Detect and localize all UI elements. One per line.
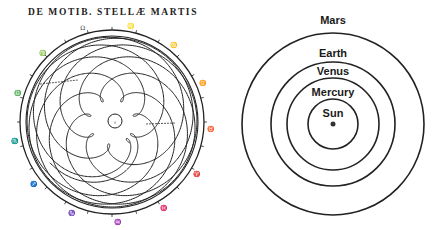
sun-dot [331, 122, 336, 127]
zodiac-label: ♑ [68, 209, 76, 217]
zodiac-tick [177, 55, 179, 57]
label-venus: Venus [317, 65, 349, 77]
zodiac-label: ♓ [160, 204, 168, 212]
zodiac-label: ♊ [199, 79, 207, 87]
zodiac-label: ♒ [114, 218, 122, 226]
zodiac-tick [192, 75, 195, 77]
zodiac-label: ♏ [11, 137, 19, 145]
zodiac-label: ♐ [30, 180, 38, 188]
zodiac-tick [158, 40, 160, 43]
zodiac-tick [65, 202, 67, 205]
label-mars: Mars [320, 14, 346, 26]
zodiac-label: ♎ [14, 89, 22, 97]
zodiac-tick [65, 40, 67, 43]
label-sun: Sun [323, 107, 344, 119]
zodiac-label: ♋ [170, 41, 178, 49]
zodiac-tick [30, 168, 33, 170]
geocentric-mars-path-diagram: Ω♌♋♊♉♈♓♒♑♐♏♎♍♁ [0, 0, 441, 230]
zodiac-label: ♉ [207, 125, 215, 133]
label-mercury: Mercury [312, 86, 355, 98]
zodiac-tick [177, 187, 179, 189]
zodiac-label: Ω [80, 24, 85, 31]
annotation-leader-right [146, 123, 176, 124]
label-earth: Earth [319, 47, 347, 59]
zodiac-label: ♌ [127, 22, 135, 30]
zodiac-tick [30, 75, 33, 77]
zodiac-tick [192, 168, 195, 170]
zodiac-tick [45, 187, 47, 189]
zodiac-label: ♍ [39, 49, 47, 57]
earth-symbol: ♁ [113, 119, 118, 125]
zodiac-label: ♈ [193, 170, 201, 178]
